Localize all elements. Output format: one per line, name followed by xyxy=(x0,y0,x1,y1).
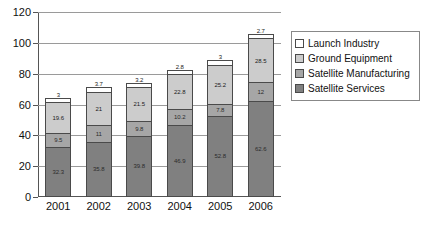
x-axis-tick-label-2004: 2004 xyxy=(167,199,193,215)
legend-label: Satellite Manufacturing xyxy=(308,69,410,79)
bar-segment[interactable]: 9.8 xyxy=(126,121,152,136)
bar-segment[interactable]: 19.6 xyxy=(45,102,71,132)
legend-item[interactable]: Satellite Services xyxy=(295,81,415,96)
legend-swatch-icon xyxy=(295,54,304,63)
bar-segment-value-label: 62.6 xyxy=(255,146,266,152)
bar-stack: 3.221.59.839.8 xyxy=(126,83,152,198)
y-axis-tick xyxy=(33,197,38,198)
bar-stack: 2.728.51262.6 xyxy=(248,34,274,197)
bar-segment[interactable]: 9.5 xyxy=(45,133,71,148)
y-axis-tick-label: 80 xyxy=(19,68,31,79)
bar-segment[interactable]: 22.8 xyxy=(167,74,193,109)
bar-segment-value-label: 12 xyxy=(258,89,264,95)
bar-segment[interactable]: 39.8 xyxy=(126,136,152,197)
bar-group-2001[interactable]: 319.69.532.3 xyxy=(45,12,71,197)
x-axis-tick-label-2006: 2006 xyxy=(248,199,274,215)
legend-swatch-icon xyxy=(295,39,304,48)
bar-segment-value-label: 2.8 xyxy=(176,64,184,70)
bars-layer: 319.69.532.33.7211135.83.221.59.839.82.8… xyxy=(38,12,281,197)
bar-group-2005[interactable]: 325.27.852.8 xyxy=(207,12,233,197)
bar-stack: 319.69.532.3 xyxy=(45,98,71,197)
bar-segment-value-label: 22.8 xyxy=(174,89,185,95)
bar-segment[interactable]: 32.3 xyxy=(45,147,71,197)
y-axis-tick-label: 120 xyxy=(13,7,31,18)
bar-segment-value-label: 35.8 xyxy=(93,166,104,172)
x-axis-tick-label-2001: 2001 xyxy=(45,199,71,215)
x-axis-tick-label-2002: 2002 xyxy=(86,199,112,215)
bar-segment[interactable]: 10.2 xyxy=(167,109,193,125)
bar-segment-value-label: 32.3 xyxy=(53,169,64,175)
bar-segment[interactable]: 21 xyxy=(86,92,112,124)
bar-segment-value-label: 2.7 xyxy=(257,28,265,34)
x-axis-tick-label-2005: 2005 xyxy=(207,199,233,215)
bar-segment-value-label: 10.2 xyxy=(174,114,185,120)
bar-segment[interactable]: 62.6 xyxy=(248,101,274,198)
y-axis-tick-label: 0 xyxy=(25,192,31,203)
y-axis-tick-label: 100 xyxy=(13,37,31,48)
bar-group-2004[interactable]: 2.822.810.246.9 xyxy=(167,12,193,197)
x-axis-tick-label-2003: 2003 xyxy=(126,199,152,215)
bar-segment[interactable]: 52.8 xyxy=(207,116,233,197)
plot-area: 020406080100120 319.69.532.33.7211135.83… xyxy=(38,12,281,197)
legend-label: Satellite Services xyxy=(308,84,385,94)
bar-segment-value-label: 52.8 xyxy=(215,153,226,159)
bar-stack: 325.27.852.8 xyxy=(207,60,233,197)
legend-swatch-icon xyxy=(295,84,304,93)
y-axis-tick-label: 20 xyxy=(19,161,31,172)
bar-segment-value-label: 11 xyxy=(96,131,102,137)
bar-segment-value-label: 25.2 xyxy=(215,82,226,88)
legend-item[interactable]: Launch Industry xyxy=(295,36,415,51)
bar-segment-value-label: 39.8 xyxy=(134,163,145,169)
legend-label: Launch Industry xyxy=(308,39,379,49)
x-axis-tick-labels: 200120022003200420052006 xyxy=(38,199,281,215)
legend-label: Ground Equipment xyxy=(308,54,392,64)
bar-segment-value-label: 46.9 xyxy=(174,158,185,164)
bar-segment[interactable]: 12 xyxy=(248,82,274,101)
bar-group-2003[interactable]: 3.221.59.839.8 xyxy=(126,12,152,197)
legend-item[interactable]: Satellite Manufacturing xyxy=(295,66,415,81)
bar-segment-value-label: 3.7 xyxy=(95,81,103,87)
bar-segment-value-label: 21 xyxy=(96,106,102,112)
bar-segment-value-label: 9.5 xyxy=(54,137,62,143)
bar-segment[interactable]: 21.5 xyxy=(126,87,152,120)
bar-segment-value-label: 9.8 xyxy=(135,126,143,132)
bar-segment[interactable]: 46.9 xyxy=(167,125,193,197)
stacked-bar-chart: 020406080100120 319.69.532.33.7211135.83… xyxy=(0,0,425,229)
bar-segment[interactable]: 7.8 xyxy=(207,104,233,116)
bar-segment-value-label: 7.8 xyxy=(216,107,224,113)
legend-swatch-icon xyxy=(295,69,304,78)
bar-segment[interactable]: 11 xyxy=(86,125,112,142)
bar-group-2002[interactable]: 3.7211135.8 xyxy=(86,12,112,197)
legend-item[interactable]: Ground Equipment xyxy=(295,51,415,66)
bar-segment-value-label: 3 xyxy=(219,54,222,60)
bar-segment[interactable]: 35.8 xyxy=(86,142,112,197)
bar-segment-value-label: 3.2 xyxy=(135,77,143,83)
bar-segment[interactable]: 25.2 xyxy=(207,65,233,104)
bar-stack: 3.7211135.8 xyxy=(86,87,112,197)
bar-segment-value-label: 28.5 xyxy=(255,58,266,64)
bar-stack: 2.822.810.246.9 xyxy=(167,70,193,197)
bar-segment-value-label: 3 xyxy=(57,92,60,98)
y-axis-tick-label: 40 xyxy=(19,130,31,141)
bar-segment[interactable]: 28.5 xyxy=(248,38,274,82)
bar-group-2006[interactable]: 2.728.51262.6 xyxy=(248,12,274,197)
y-axis-tick-label: 60 xyxy=(19,99,31,110)
bar-segment-value-label: 19.6 xyxy=(53,115,64,121)
bar-segment-value-label: 21.5 xyxy=(134,101,145,107)
chart-legend: Launch IndustryGround EquipmentSatellite… xyxy=(291,31,420,101)
